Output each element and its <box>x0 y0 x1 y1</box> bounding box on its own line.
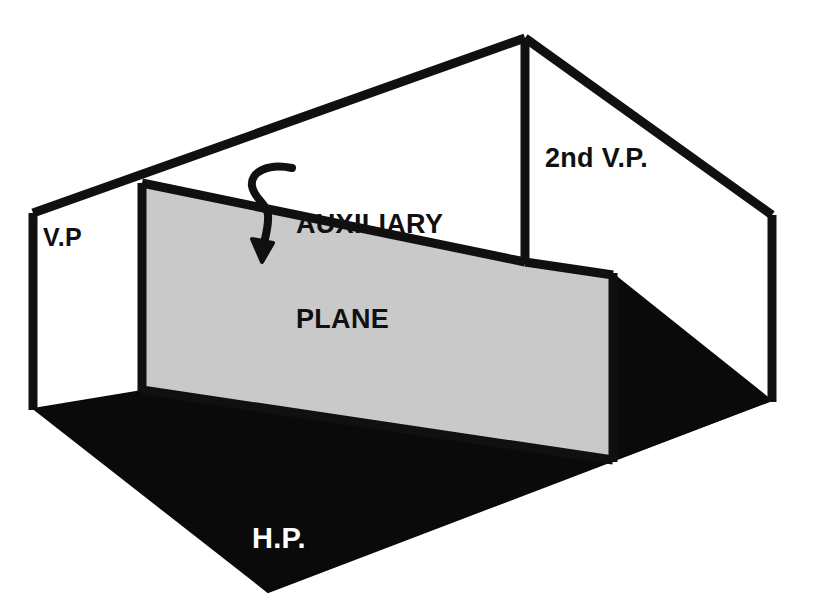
auxiliary-plane-label-line2: PLANE <box>296 304 443 336</box>
horizontal-plane-label: H.P. <box>252 521 306 555</box>
auxiliary-plane-label-line1: AUXILIARY <box>296 209 443 241</box>
projection-planes-diagram: V.P AUXILIARY PLANE 2nd V.P. H.P. <box>0 0 813 614</box>
auxiliary-plane-label: AUXILIARY PLANE <box>296 145 443 400</box>
roof-left-edge <box>33 38 525 213</box>
vertical-plane-surface <box>33 183 142 408</box>
vertical-plane-label: V.P <box>43 223 82 253</box>
second-vertical-plane-label: 2nd V.P. <box>545 143 648 175</box>
